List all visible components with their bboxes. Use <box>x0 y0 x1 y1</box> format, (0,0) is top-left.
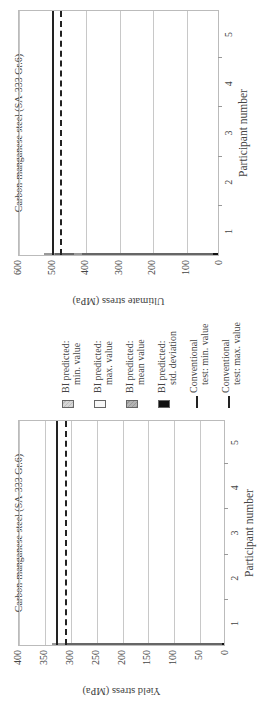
y-tick-label: 150 <box>141 650 152 680</box>
x-tick-label: 1 <box>229 616 240 630</box>
x-tick-label: 2 <box>229 571 240 585</box>
mean-bar <box>67 643 224 645</box>
x-minor-tick <box>218 205 222 206</box>
y-tick-label: 500 <box>46 260 57 290</box>
gridline <box>120 11 121 255</box>
y-tick-label: 0 <box>219 650 230 680</box>
legend-label-line1: Conventional <box>188 324 199 393</box>
dashed-line-swatch <box>196 396 198 408</box>
y-tick-label: 200 <box>146 260 157 290</box>
y-tick-label: 600 <box>12 260 23 290</box>
x-tick-label: 3 <box>229 526 240 540</box>
x-minor-tick <box>224 554 228 555</box>
x-tick-label: 3 <box>223 126 234 140</box>
legend-label-line2: test: max. value <box>231 322 242 393</box>
std-dev-bar <box>213 253 218 255</box>
legend-label-line1: BI predicted: <box>124 339 135 393</box>
conventional-min-line <box>65 421 67 645</box>
mean-bar <box>82 253 218 255</box>
x-minor-tick <box>224 508 228 509</box>
conventional-min-line <box>60 11 62 255</box>
gridline <box>97 421 98 645</box>
x-tick-label: 4 <box>223 77 234 91</box>
ultimate-stress-chart: Carbon-manganese steel (SA-333 Gr.6)0100… <box>0 6 265 296</box>
solid-line-swatch <box>228 396 230 408</box>
legend-item: BI predicted:mean value <box>124 328 150 408</box>
legend-label-line2: std. deviation <box>167 331 178 393</box>
x-axis-label: Participant number <box>237 83 249 183</box>
legend-label-line2: test: min. value <box>199 324 210 393</box>
x-minor-tick <box>218 106 222 107</box>
std-dev-bar <box>222 643 224 645</box>
x-tick-label: 2 <box>223 175 234 189</box>
legend-item: BI predicted:max. value <box>92 328 118 408</box>
gridline <box>45 421 46 645</box>
mean-swatch <box>126 400 138 408</box>
y-axis-label: Ultimate stress (MPa) <box>18 296 218 307</box>
plot-area: Carbon-manganese steel (SA-333 Gr.6) <box>18 420 225 646</box>
y-tick-label: 100 <box>180 260 191 290</box>
gridline <box>200 421 201 645</box>
figure-rotated: Carbon-manganese steel (SA-333 Gr.6)0501… <box>0 0 265 726</box>
legend-item: BI predicted:min. value <box>60 328 86 408</box>
max-swatch <box>94 400 106 408</box>
legend-label-line2: mean value <box>135 339 146 393</box>
min-swatch <box>62 400 74 408</box>
gridline <box>148 421 149 645</box>
legend-item: Conventionaltest: min. value <box>188 328 214 408</box>
legend-label: BI predicted:std. deviation <box>156 331 178 393</box>
legend-label-line2: max. value <box>103 341 114 393</box>
legend-item: Conventionaltest: max. value <box>220 328 246 408</box>
x-minor-tick <box>218 57 222 58</box>
legend-label-line1: BI predicted: <box>156 331 167 393</box>
plot-area: Carbon-manganese steel (SA-333 Gr.6) <box>18 10 219 256</box>
y-tick-label: 250 <box>90 650 101 680</box>
legend-item: BI predicted:std. deviation <box>156 328 182 408</box>
x-minor-tick <box>224 463 228 464</box>
y-tick-label: 400 <box>79 260 90 290</box>
gridline <box>153 11 154 255</box>
conventional-max-line <box>56 421 58 645</box>
legend-label: Conventionaltest: min. value <box>188 324 210 393</box>
legend-label: BI predicted:mean value <box>124 339 146 393</box>
x-tick-label: 1 <box>223 224 234 238</box>
x-minor-tick <box>224 599 228 600</box>
legend-label-line1: Conventional <box>220 322 231 393</box>
x-minor-tick <box>218 156 222 157</box>
x-tick-label: 5 <box>223 28 234 42</box>
y-tick-label: 0 <box>213 260 224 290</box>
legend-label-line2: min. value <box>71 341 82 393</box>
legend-label-line1: BI predicted: <box>92 341 103 393</box>
gridline <box>187 11 188 255</box>
y-tick-label: 400 <box>12 650 23 680</box>
legend-label: Conventionaltest: max. value <box>220 322 242 393</box>
y-tick-label: 100 <box>167 650 178 680</box>
legend-label: BI predicted:max. value <box>92 341 114 393</box>
y-tick-label: 200 <box>116 650 127 680</box>
y-axis-label: Yield stress (MPa) <box>21 686 221 697</box>
title-separator <box>19 421 20 645</box>
legend-label: BI predicted:min. value <box>60 341 82 393</box>
y-tick-label: 350 <box>38 650 49 680</box>
sd-swatch <box>158 400 170 408</box>
gridline <box>86 11 87 255</box>
gridline <box>123 421 124 645</box>
yield-stress-chart: Carbon-manganese steel (SA-333 Gr.6)0501… <box>0 416 265 686</box>
x-tick-label: 5 <box>229 436 240 450</box>
x-axis-label: Participant number <box>243 483 255 583</box>
y-tick-label: 300 <box>64 650 75 680</box>
legend: BI predicted:min. valueBI predicted:max.… <box>60 328 265 408</box>
title-separator <box>19 11 20 255</box>
gridline <box>174 421 175 645</box>
gridline <box>71 421 72 645</box>
legend-label-line1: BI predicted: <box>60 341 71 393</box>
y-tick-label: 50 <box>193 650 204 680</box>
x-tick-label: 4 <box>229 481 240 495</box>
conventional-max-line <box>52 11 54 255</box>
y-tick-label: 300 <box>113 260 124 290</box>
